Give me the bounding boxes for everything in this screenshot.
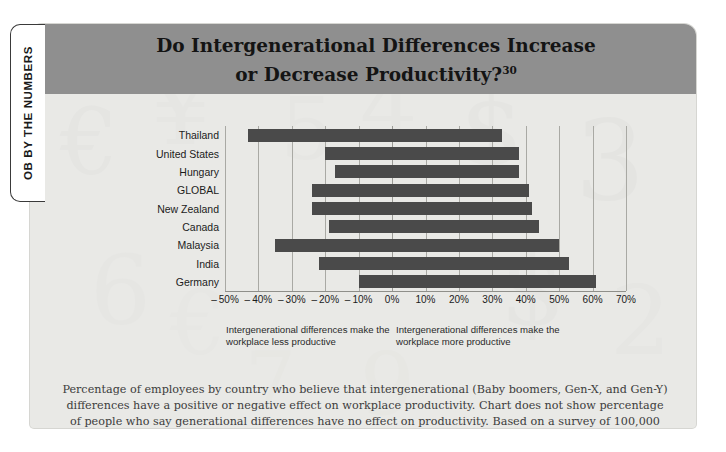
gridline-70 — [626, 126, 627, 291]
category-label-hungary: Hungary — [179, 166, 219, 178]
gridline-60 — [593, 126, 594, 291]
note-more-productive: Intergenerational differences make the w… — [396, 324, 561, 349]
category-label-thailand: Thailand — [179, 129, 219, 141]
category-label-germany: Germany — [176, 276, 219, 288]
gridline--40 — [258, 126, 259, 291]
category-axis-labels: ThailandUnited StatesHungaryGLOBALNew Ze… — [125, 126, 219, 291]
tick-label--50: – 50% — [211, 294, 239, 305]
tick-label-10: 10% — [415, 294, 435, 305]
tick-label-70: 70% — [616, 294, 636, 305]
bar-thailand — [248, 129, 502, 142]
category-label-united-states: United States — [156, 148, 219, 160]
tick-label--40: – 40% — [245, 294, 273, 305]
bar-malaysia — [275, 239, 559, 252]
tick-label-40: 40% — [516, 294, 536, 305]
value-axis-ticks: – 50%– 40%– 30%– 20%– 10%0%10%20%30%40%5… — [225, 294, 626, 310]
category-label-global: GLOBAL — [177, 184, 219, 196]
tick-label-50: 50% — [549, 294, 569, 305]
tick-label--30: – 30% — [278, 294, 306, 305]
tick-label--10: – 10% — [345, 294, 373, 305]
exhibit-header-band: Do Intergenerational Differences Increas… — [30, 24, 696, 94]
section-tab-label: OB BY THE NUMBERS — [22, 46, 34, 180]
bar-global — [312, 184, 529, 197]
chart-area: ThailandUnited StatesHungaryGLOBALNew Ze… — [30, 94, 696, 428]
category-label-new-zealand: New Zealand — [157, 203, 219, 215]
bar-united-states — [325, 147, 519, 160]
category-label-canada: Canada — [182, 221, 219, 233]
bar-germany — [359, 275, 596, 288]
exhibit-caption: Percentage of employees by country who b… — [60, 382, 670, 428]
tick-label-30: 30% — [482, 294, 502, 305]
bar-india — [319, 257, 570, 270]
gridline--30 — [292, 126, 293, 291]
tick-label-0: 0% — [385, 294, 399, 305]
tick-label--20: – 20% — [311, 294, 339, 305]
category-label-malaysia: Malaysia — [178, 239, 219, 251]
exhibit-panel: € ¥ 5 4 $ 3 6 € $ 2 9 7 Do Intergenerati… — [30, 24, 696, 428]
tick-label-60: 60% — [583, 294, 603, 305]
bar-canada — [329, 220, 540, 233]
tick-label-20: 20% — [449, 294, 469, 305]
gridline--50 — [225, 126, 226, 291]
value-axis-line — [225, 291, 626, 292]
plot-area — [225, 126, 626, 291]
title-line-1: Do Intergenerational Differences Increas… — [156, 35, 595, 56]
footnote-marker: 30 — [502, 64, 517, 76]
note-less-productive: Intergenerational differences make the w… — [226, 324, 391, 349]
bar-hungary — [335, 165, 519, 178]
section-tab: OB BY THE NUMBERS — [10, 24, 45, 202]
title-line-2: or Decrease Productivity? — [235, 64, 502, 85]
page-title: Do Intergenerational Differences Increas… — [74, 33, 678, 87]
category-label-india: India — [196, 258, 219, 270]
exhibit-page: € ¥ 5 4 $ 3 6 € $ 2 9 7 Do Intergenerati… — [0, 0, 726, 452]
bar-new-zealand — [312, 202, 533, 215]
